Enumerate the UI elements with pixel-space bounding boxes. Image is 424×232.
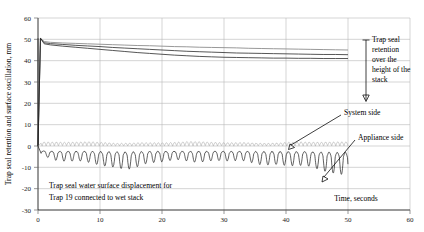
x-tick-label: 0 xyxy=(36,216,40,224)
y-axis-title: Trap seal retention and surface oscillat… xyxy=(4,43,13,186)
retention-line-1: Trap seal xyxy=(372,35,400,44)
y-tick-label: 20 xyxy=(24,100,32,108)
y-tick-label: -30 xyxy=(22,207,32,215)
y-tick-label: 10 xyxy=(24,121,32,129)
retention-line-5: stack xyxy=(372,75,388,84)
y-tick-label: -10 xyxy=(22,164,32,172)
x-tick-label: 10 xyxy=(97,216,105,224)
retention-line-2: retention xyxy=(372,45,399,54)
y-tick-label: 60 xyxy=(24,15,32,23)
trap-seal-oscillation-chart: 60 50 40 30 20 10 0 -10 -20 -30 0 10 20 … xyxy=(0,0,424,232)
retention-line-3: over the xyxy=(372,55,397,64)
y-tick-label: 50 xyxy=(24,36,32,44)
x-tick-label: 60 xyxy=(407,216,415,224)
y-tick-marks xyxy=(34,18,38,210)
x-tick-label: 30 xyxy=(221,216,229,224)
caption-line-1: Trap seal water surface displacement for xyxy=(49,181,173,190)
y-tick-label: 40 xyxy=(24,57,32,65)
x-tick-labels: 0 10 20 30 40 50 60 xyxy=(36,216,414,224)
y-tick-labels: 60 50 40 30 20 10 0 -10 -20 -30 xyxy=(22,15,32,215)
x-axis-title: Time, seconds xyxy=(334,194,378,203)
x-tick-marks xyxy=(38,210,410,214)
system-side-label: System side xyxy=(344,108,381,117)
appliance-side-label: Appliance side xyxy=(358,133,404,142)
retention-line-4: height of the xyxy=(372,65,411,74)
y-tick-label: 30 xyxy=(24,79,32,87)
caption-line-2: Trap 19 connected to wet stack xyxy=(49,193,144,202)
y-tick-label: 0 xyxy=(28,143,32,151)
y-tick-label: -20 xyxy=(22,185,32,193)
x-tick-label: 50 xyxy=(345,216,353,224)
x-tick-label: 20 xyxy=(159,216,167,224)
chart-container: 60 50 40 30 20 10 0 -10 -20 -30 0 10 20 … xyxy=(0,0,424,232)
x-tick-label: 40 xyxy=(283,216,291,224)
